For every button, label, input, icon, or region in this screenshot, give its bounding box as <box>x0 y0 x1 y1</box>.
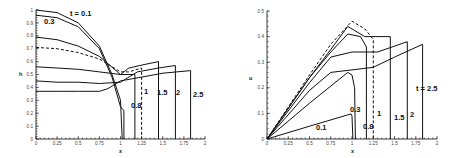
x-tick-label: 1 <box>351 141 354 146</box>
y-tick-label: 0.3 <box>258 60 265 65</box>
left-x-axis-label: x <box>119 148 123 154</box>
chart-h: 00.250.50.7511.251.51.752 00.10.20.30.40… <box>19 8 207 154</box>
x-tick-label: 0.75 <box>326 141 335 146</box>
curve-label-t08: 0.8 <box>131 101 141 110</box>
curve-label-t15: 1.5 <box>394 113 404 122</box>
curve-2.5 <box>267 44 423 139</box>
y-tick-label: 0.5 <box>258 9 265 14</box>
curve-label-t03: 0.3 <box>44 17 54 26</box>
y-tick-label: 0.2 <box>258 85 265 90</box>
left-y-axis-label: h <box>19 71 23 77</box>
curve-0.3 <box>36 15 124 139</box>
x-tick-label: 2 <box>204 141 207 146</box>
figure: 00.250.50.7511.251.51.752 00.10.20.30.40… <box>0 0 461 158</box>
x-tick-label: 0 <box>266 141 269 146</box>
left-x-ticks: 00.250.50.7511.251.51.752 <box>35 136 207 146</box>
y-tick-label: 0.4 <box>258 34 265 39</box>
y-tick-label: 0.4 <box>27 85 34 90</box>
y-tick-label: 0.6 <box>27 59 34 64</box>
y-tick-label: 0.5 <box>27 72 34 77</box>
curve-label-t01: 0.1 <box>316 123 326 132</box>
y-tick-label: 0.3 <box>27 98 34 103</box>
curve-label-t1: 1 <box>144 87 148 96</box>
curve-label-t25: 2.5 <box>193 90 203 99</box>
y-tick-label: 0.7 <box>27 46 34 51</box>
curve-label-t08: 0.8 <box>363 122 373 131</box>
curve-1 <box>36 47 142 139</box>
right-x-axis-label: x <box>351 148 355 154</box>
right-y-ticks: 00.10.20.30.40.5 <box>258 9 270 142</box>
x-tick-label: 0 <box>35 141 38 146</box>
y-tick-label: 0.1 <box>27 124 34 129</box>
curve-label-t03: 0.3 <box>350 105 360 114</box>
x-tick-label: 1 <box>119 141 122 146</box>
y-tick-label: 0 <box>30 137 33 142</box>
curve-0.1 <box>36 10 122 139</box>
right-y-axis-label: u <box>249 75 252 81</box>
x-tick-label: 1.75 <box>179 141 188 146</box>
x-tick-label: 2 <box>436 141 439 146</box>
x-tick-label: 0.5 <box>306 141 313 146</box>
y-tick-label: 0 <box>261 137 264 142</box>
y-tick-label: 0.9 <box>27 21 34 26</box>
left-curves <box>36 10 191 139</box>
right-x-ticks: 00.250.50.7511.251.51.752 <box>266 136 439 146</box>
x-tick-label: 0.25 <box>284 141 293 146</box>
curve-2 <box>36 66 175 140</box>
x-tick-label: 1.75 <box>411 141 420 146</box>
curve-0.3 <box>267 72 355 139</box>
curve-label-t1: 1 <box>377 109 381 118</box>
y-tick-label: 0.1 <box>258 111 265 116</box>
y-tick-label: 1 <box>30 8 33 13</box>
x-tick-label: 1.5 <box>160 141 167 146</box>
x-tick-label: 0.25 <box>53 141 62 146</box>
curve-label-t25: t = 2.5 <box>416 84 437 93</box>
x-tick-label: 0.5 <box>75 141 82 146</box>
chart-u: 00.250.50.7511.251.51.752 00.10.20.30.40… <box>249 9 439 154</box>
y-tick-label: 0.2 <box>27 111 34 116</box>
x-tick-label: 1.25 <box>369 141 378 146</box>
curve-2 <box>267 42 407 139</box>
x-tick-label: 1.5 <box>391 141 398 146</box>
curve-0.8 <box>36 37 135 139</box>
x-tick-label: 1.25 <box>137 141 146 146</box>
curve-label-t2: 2 <box>176 88 180 97</box>
curve-0.1 <box>267 114 353 139</box>
left-y-ticks: 00.10.20.30.40.50.60.70.80.91 <box>27 8 39 142</box>
curve-label-t01: t = 0.1 <box>70 9 91 18</box>
curve-label-t15: 1.5 <box>157 88 167 97</box>
y-tick-label: 0.8 <box>27 33 34 38</box>
curve-label-t2: 2 <box>410 110 414 119</box>
x-tick-label: 0.75 <box>95 141 104 146</box>
